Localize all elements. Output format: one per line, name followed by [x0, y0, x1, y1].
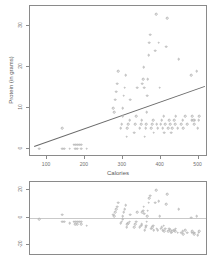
data-point	[113, 111, 116, 114]
data-point	[125, 135, 128, 138]
data-point	[122, 211, 125, 214]
y-axis-title: Protein (in grams)	[8, 56, 14, 104]
data-point	[125, 204, 128, 207]
x-tick-label: 200	[80, 161, 88, 167]
data-point	[125, 226, 128, 229]
data-point	[120, 123, 123, 126]
y-tick-label: 30	[17, 23, 23, 29]
data-point	[38, 218, 41, 221]
data-point	[181, 119, 184, 122]
data-point	[169, 123, 172, 126]
data-point	[159, 215, 162, 218]
data-point	[134, 223, 137, 226]
data-point	[126, 127, 129, 130]
data-point	[154, 50, 157, 53]
data-point	[155, 189, 158, 192]
x-tick-mark	[122, 156, 123, 159]
data-point	[197, 119, 200, 122]
data-point	[86, 225, 89, 228]
data-point	[195, 70, 198, 73]
y-tick-mark	[26, 244, 29, 245]
data-point	[195, 215, 198, 218]
data-point	[134, 123, 137, 126]
data-point	[114, 99, 117, 102]
data-point	[164, 123, 167, 126]
data-point	[143, 135, 146, 138]
scatter-plot-frame	[29, 5, 207, 156]
data-point	[80, 223, 83, 226]
data-point	[148, 197, 151, 200]
data-point	[68, 222, 71, 225]
data-point	[140, 123, 143, 126]
figure-root: 1002003004005000102030 Calories Protein …	[0, 0, 220, 268]
data-point	[116, 205, 119, 208]
data-point	[61, 127, 64, 130]
data-point	[164, 227, 167, 230]
data-point	[120, 220, 123, 223]
data-point	[152, 225, 155, 228]
data-point	[122, 94, 125, 97]
data-point	[152, 119, 155, 122]
data-point	[155, 13, 158, 16]
data-point	[161, 127, 164, 130]
x-tick-label: 400	[155, 161, 163, 167]
x-tick-label: 100	[42, 161, 50, 167]
data-point	[113, 215, 116, 218]
data-point	[145, 225, 148, 228]
data-point	[86, 148, 89, 151]
data-point	[165, 203, 168, 206]
data-point	[190, 74, 193, 77]
scatter-panel: 1002003004005000102030 Calories Protein …	[0, 0, 220, 178]
data-point	[128, 119, 131, 122]
data-point	[129, 99, 132, 102]
data-point	[186, 231, 189, 234]
zero-reference-line	[30, 218, 206, 219]
y-tick-label: 0	[17, 215, 23, 218]
data-point	[112, 107, 115, 110]
y-tick-label: -20	[17, 240, 23, 247]
data-point	[168, 119, 171, 122]
data-point	[176, 127, 179, 130]
data-point	[127, 123, 130, 126]
data-point	[198, 230, 201, 233]
data-point	[193, 231, 196, 234]
data-point	[146, 78, 149, 81]
y-tick-label: 20	[17, 186, 23, 192]
y-tick-label: 0	[17, 146, 23, 149]
data-point	[156, 123, 159, 126]
data-point	[143, 86, 146, 89]
data-point	[156, 127, 159, 130]
data-point	[153, 131, 156, 134]
data-point	[173, 119, 176, 122]
data-point	[157, 200, 160, 203]
data-point	[121, 115, 124, 118]
data-point	[198, 115, 201, 118]
data-point	[142, 78, 145, 81]
data-point	[147, 54, 150, 57]
data-point	[166, 193, 169, 196]
data-point	[141, 82, 144, 85]
data-point	[115, 90, 118, 93]
data-point	[121, 218, 124, 221]
data-point	[38, 148, 41, 151]
y-tick-mark	[26, 66, 29, 67]
data-point	[123, 208, 126, 211]
data-point	[145, 111, 148, 114]
data-point	[150, 127, 153, 130]
scatter-plot-area	[30, 6, 206, 155]
data-point	[146, 94, 149, 97]
data-point	[196, 234, 199, 237]
data-point	[145, 123, 148, 126]
data-point	[125, 74, 128, 77]
data-point	[135, 115, 138, 118]
data-point	[120, 127, 123, 130]
data-point	[171, 127, 174, 130]
data-point	[117, 70, 120, 73]
x-axis-title: Calories	[107, 170, 129, 176]
data-point	[143, 229, 146, 232]
data-point	[80, 148, 83, 151]
data-point	[123, 86, 126, 89]
data-point	[133, 131, 136, 134]
data-point	[154, 201, 157, 204]
data-point	[128, 220, 131, 223]
